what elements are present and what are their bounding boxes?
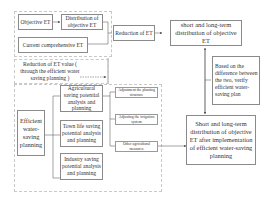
reduction-et-value-text: Reduction of ET value ( through the effi… bbox=[15, 61, 85, 82]
other-agricultural-measures-box: Other agricultural measures bbox=[115, 141, 158, 152]
short-long-term-distribution-box: short and long-term distribution of obje… bbox=[170, 20, 242, 46]
industry-saving-box: Industry saving potential analysis and p… bbox=[60, 153, 103, 180]
efficient-water-saving-planning-box: Efficient water-saving planning bbox=[17, 110, 45, 156]
after-implementation-box: Short and long-term distribution of obje… bbox=[186, 115, 256, 165]
current-comprehensive-et-box: Current comprehensive ET bbox=[18, 37, 88, 53]
verify-note-box: Based on the difference between the two,… bbox=[212, 56, 260, 105]
objective-et-box: Objective ET bbox=[18, 14, 53, 30]
town-life-saving-box: Town life saving potential analysis and … bbox=[60, 120, 103, 147]
adjust-irrigation-system-box: Adjusting the irrigation system bbox=[115, 114, 158, 125]
reduction-of-et-box: Reduction of ET bbox=[113, 25, 155, 41]
adjust-planting-structure-box: Adjustment the planting structure bbox=[115, 87, 158, 98]
distribution-objective-et-box: Distribution of objective ET bbox=[61, 14, 103, 30]
agricultural-saving-box: Agricultural saving potential analysis a… bbox=[60, 85, 103, 112]
